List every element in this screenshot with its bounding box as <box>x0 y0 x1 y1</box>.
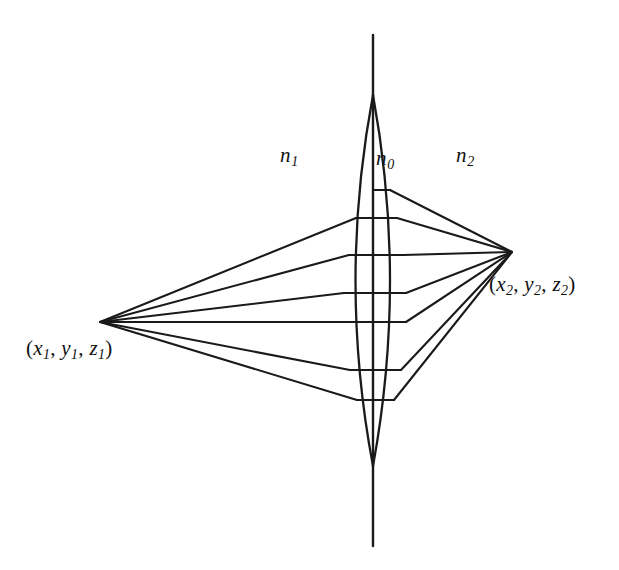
obj-comma-2: , <box>78 336 89 360</box>
img-comma-2: , <box>541 272 552 296</box>
incident-ray-6 <box>100 322 357 400</box>
incident-ray-5 <box>100 322 350 370</box>
refracted-ray-6 <box>401 252 512 370</box>
obj-paren-close: ) <box>105 336 112 360</box>
optical-ray-diagram: n1 n0 n2 (x1, y1, z1) (x2, y2, z2) <box>0 0 619 570</box>
img-x: x <box>496 272 506 296</box>
obj-z: z <box>89 336 97 360</box>
object-point-coordinate-label: (x1, y1, z1) <box>26 336 112 363</box>
lens-left-surface <box>356 95 374 466</box>
img-comma-1: , <box>513 272 524 296</box>
refractive-index-label-n2: n2 <box>456 143 474 170</box>
internal-ray-segments <box>343 218 406 400</box>
refractive-index-label-n1: n1 <box>280 143 298 170</box>
obj-y: y <box>61 336 71 360</box>
n0-subscript: 0 <box>387 157 394 172</box>
image-point-coordinate-label: (x2, y2, z2) <box>489 272 575 299</box>
img-z: z <box>552 272 560 296</box>
img-paren-close: ) <box>568 272 575 296</box>
incident-rays <box>100 218 357 400</box>
n2-subscript: 2 <box>467 154 474 169</box>
img-y: y <box>524 272 534 296</box>
cross-lens-chords <box>343 293 406 322</box>
n1-subscript: 1 <box>291 154 298 169</box>
refractive-index-label-n0: n0 <box>376 146 394 173</box>
obj-comma-1: , <box>50 336 61 360</box>
n2-base: n <box>456 143 467 167</box>
obj-x: x <box>33 336 43 360</box>
n0-base: n <box>376 146 387 170</box>
incident-ray-2 <box>100 255 349 322</box>
refracted-ray-3 <box>403 252 512 255</box>
n1-base: n <box>280 143 291 167</box>
